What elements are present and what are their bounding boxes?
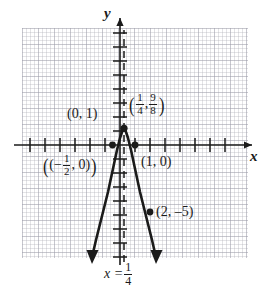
point-label-extra: (2, –5) [156,205,193,219]
point-extra [147,209,154,216]
vertex-y-fraction: 9 8 [149,92,157,116]
parabola-arrow-right [151,250,163,264]
left-intercept-tail: , 0) [71,157,90,172]
left-intercept-paren-open: ( [43,156,48,176]
parabola-figure: y x (0, 1) ( 1 4 , 9 8 ) ((− 1 2 , 0)) (… [0,0,271,288]
left-intercept-fraction: 1 2 [63,153,71,177]
graph-plot [0,0,271,288]
aos-lhs: x = [104,266,123,281]
parabola-arrow-left [87,250,99,264]
vertex-comma: , [145,96,149,111]
point-vertex [120,125,127,132]
x-axis-label: x [250,149,258,164]
point-label-y-intercept: (0, 1) [67,107,97,121]
y-axis-label: y [104,6,111,21]
point-x-intercept-left [109,142,116,149]
point-label-x-intercept-left: ((− 1 2 , 0)) [42,154,97,178]
point-label-x-intercept-right: (1, 0) [141,155,171,169]
vertex-paren-open: ( [129,95,134,115]
vertex-x-fraction: 1 4 [136,92,144,116]
aos-fraction: 1 4 [124,261,132,287]
vertex-paren-close: ) [159,95,164,115]
point-x-intercept-right [132,142,139,149]
left-intercept-minus: (− [49,157,62,172]
point-label-vertex: ( 1 4 , 9 8 ) [128,93,165,117]
left-intercept-paren-close: ) [91,156,96,176]
axis-of-symmetry-label: x = 1 4 [104,262,133,288]
